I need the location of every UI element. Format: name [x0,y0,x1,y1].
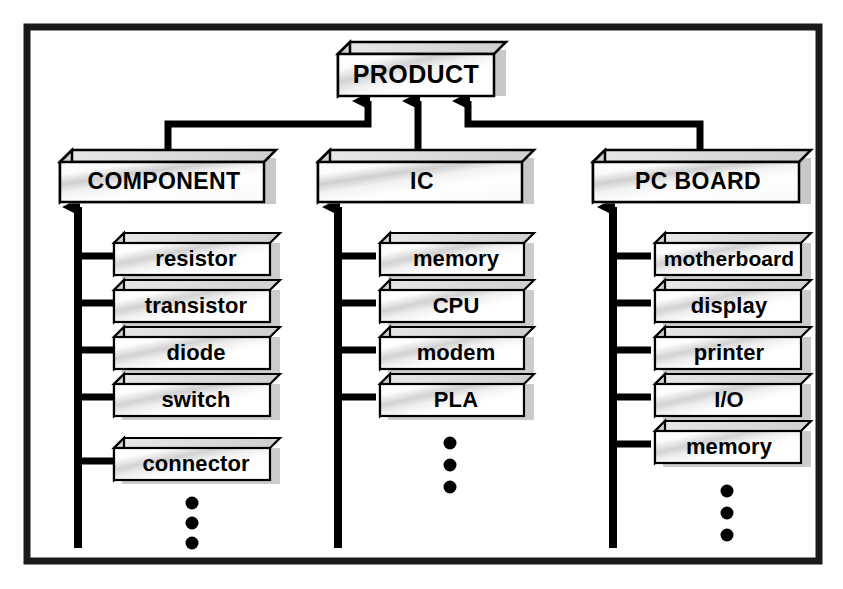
leaf-top-face [655,374,811,384]
leaf-modem[interactable]: modem [380,327,534,373]
leaf-label: CPU [433,293,480,318]
leaf-label: printer [694,340,765,365]
leaf-printer[interactable]: printer [655,327,811,373]
class-hierarchy-diagram: PRODUCT COMPONENT resistor tra [0,0,843,589]
leaf-top-face [655,233,811,243]
leaf-label: memory [413,246,500,271]
leaf-cpu[interactable]: CPU [380,280,534,326]
node-product[interactable]: PRODUCT [338,42,506,96]
ic-ellipsis [444,437,457,494]
leaf-transistor[interactable]: transistor [114,280,280,326]
leaf-top-face [114,327,280,337]
leaf-label: I/O [714,387,744,412]
component-ellipsis [186,497,199,550]
leaf-top-face [114,280,280,290]
leaf-top-face [380,233,534,243]
leaf-memory-ic[interactable]: memory [380,233,534,279]
leaf-connector[interactable]: connector [114,438,280,484]
product-label: PRODUCT [353,60,479,88]
leaf-label: PLA [434,387,478,412]
leaf-switch[interactable]: switch [114,374,280,420]
pcboard-label: PC BOARD [635,168,761,194]
leaf-top-face [114,374,280,384]
leaf-pla[interactable]: PLA [380,374,534,420]
node-component[interactable]: COMPONENT [60,150,276,204]
component-top-face [60,150,276,162]
ic-top-face [318,150,534,162]
leaf-label: display [691,293,768,318]
leaf-label: modem [417,340,496,365]
leaf-label: diode [166,340,225,365]
leaf-label: switch [161,387,230,412]
node-pcboard[interactable]: PC BOARD [593,150,811,204]
leaf-top-face [114,438,280,448]
leaf-top-face [655,327,811,337]
pcboard-ellipsis [721,485,734,542]
leaf-top-face [380,280,534,290]
leaf-display[interactable]: display [655,280,811,326]
leaf-memory-pcb[interactable]: memory [655,421,811,467]
leaf-motherboard[interactable]: motherboard [655,233,811,279]
ic-label: IC [410,168,434,194]
leaf-resistor[interactable]: resistor [114,233,280,279]
leaf-label: transistor [145,293,248,318]
leaf-label: memory [686,434,773,459]
leaf-top-face [655,280,811,290]
component-label: COMPONENT [87,168,240,194]
leaf-label: connector [142,451,250,476]
node-ic[interactable]: IC [318,150,534,204]
pcboard-top-face [593,150,811,162]
leaf-diode[interactable]: diode [114,327,280,373]
product-top-face [338,42,506,54]
leaf-io[interactable]: I/O [655,374,811,420]
leaf-top-face [380,374,534,384]
leaf-label: resistor [155,246,237,271]
diagram-page: PRODUCT COMPONENT resistor tra [0,0,843,589]
leaf-top-face [114,233,280,243]
leaf-label: motherboard [664,247,795,270]
leaf-top-face [380,327,534,337]
leaf-top-face [655,421,811,431]
